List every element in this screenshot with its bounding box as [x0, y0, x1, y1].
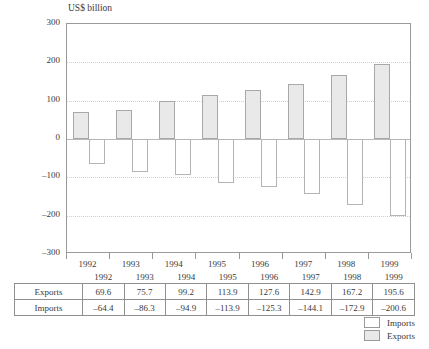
table-cell: –172.9 [331, 300, 373, 316]
bar-exports [202, 95, 218, 139]
x-axis-tick-label: 1993 [109, 259, 152, 269]
bar-imports [175, 139, 191, 175]
table-cell: –200.6 [373, 300, 415, 316]
legend-swatch-icon [364, 330, 380, 341]
bar-exports [116, 110, 132, 139]
legend-item: Exports [364, 330, 415, 341]
bar-imports [347, 139, 363, 205]
table-cell: –113.9 [207, 300, 249, 316]
x-axis-tick-label: 1995 [195, 259, 238, 269]
table-corner-cell [15, 270, 83, 284]
table-column-header: 1995 [207, 270, 249, 284]
table-cell: 99.2 [165, 284, 206, 300]
bar-imports [390, 139, 406, 216]
legend-label: Imports [387, 318, 415, 328]
x-axis-tick-label: 1996 [239, 259, 282, 269]
bar-exports [159, 101, 175, 139]
table-column-header: 1994 [165, 270, 206, 284]
gridline [67, 101, 410, 102]
table-column-header: 1997 [290, 270, 332, 284]
legend: ImportsExports [364, 317, 415, 343]
table-cell: 195.6 [373, 284, 415, 300]
y-axis-tick-label: –200 [0, 209, 60, 219]
table-column-header: 1993 [124, 270, 165, 284]
table-cell: 113.9 [207, 284, 249, 300]
y-axis-tick-label: 0 [0, 132, 60, 142]
y-axis-tick-label: –100 [0, 170, 60, 180]
table-column-header: 1992 [83, 270, 124, 284]
chart-container: US$ billion 3002001000–100–200–300 19921… [0, 0, 429, 270]
bar-imports [89, 139, 105, 164]
bar-exports [245, 90, 261, 139]
table-column-header: 1999 [373, 270, 415, 284]
table-cell: 142.9 [290, 284, 332, 300]
table-cell: 69.6 [83, 284, 124, 300]
bar-imports [218, 139, 234, 183]
table-cell: –86.3 [124, 300, 165, 316]
y-axis-tick-label: 200 [0, 55, 60, 65]
table-row-header: Exports [15, 284, 83, 300]
y-axis-tick-label: 300 [0, 17, 60, 27]
table-head: 19921993199419951996199719981999 [15, 270, 415, 284]
legend-item: Imports [364, 317, 415, 328]
table-cell: –64.4 [83, 300, 124, 316]
table-cell: –125.3 [248, 300, 290, 316]
plot-area [66, 23, 411, 253]
table-column-header: 1996 [248, 270, 290, 284]
bar-imports [304, 139, 320, 194]
table-cell: 75.7 [124, 284, 165, 300]
y-axis-tick-label: 100 [0, 94, 60, 104]
bar-exports [73, 112, 89, 139]
x-axis-tick-label: 1997 [282, 259, 325, 269]
table-column-header: 1998 [331, 270, 373, 284]
bar-imports [261, 139, 277, 187]
bar-imports [132, 139, 148, 172]
legend-label: Exports [387, 331, 415, 341]
data-table: 19921993199419951996199719981999 Exports… [14, 270, 415, 316]
bar-exports [331, 75, 347, 139]
table-body: Exports69.675.799.2113.9127.6142.9167.21… [15, 284, 415, 316]
table-row: Exports69.675.799.2113.9127.6142.9167.21… [15, 284, 415, 300]
x-axis-tick-label: 1999 [368, 259, 411, 269]
chart-axis-title: US$ billion [68, 3, 112, 13]
x-axis-tick [411, 253, 412, 259]
gridline [67, 216, 410, 217]
x-axis-tick-label: 1998 [325, 259, 368, 269]
legend-swatch-icon [364, 317, 380, 328]
bar-exports [288, 84, 304, 139]
table-cell: –144.1 [290, 300, 332, 316]
table-row-header: Imports [15, 300, 83, 316]
gridline [67, 62, 410, 63]
table-cell: –94.9 [165, 300, 206, 316]
bar-exports [374, 64, 390, 139]
table-cell: 127.6 [248, 284, 290, 300]
x-axis-tick-label: 1992 [66, 259, 109, 269]
y-axis-tick-label: –300 [0, 247, 60, 257]
table-cell: 167.2 [331, 284, 373, 300]
table-row: Imports–64.4–86.3–94.9–113.9–125.3–144.1… [15, 300, 415, 316]
table-header-row: 19921993199419951996199719981999 [15, 270, 415, 284]
x-axis-tick-label: 1994 [152, 259, 195, 269]
